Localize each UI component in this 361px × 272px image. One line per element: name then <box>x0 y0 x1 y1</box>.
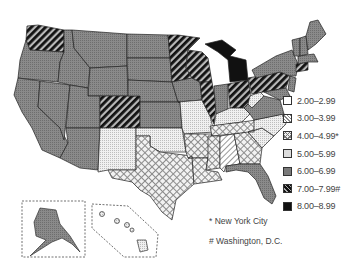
legend-item: 2.00–2.99 <box>283 92 340 110</box>
state-ak <box>30 208 80 256</box>
state-me <box>306 20 326 50</box>
swatch-dark-diagonal <box>283 184 292 193</box>
swatch-black <box>283 202 292 211</box>
state-co <box>100 96 140 128</box>
state-fl <box>226 164 276 204</box>
legend-item: 4.00–4.99* <box>283 127 340 145</box>
legend-item: 8.00–8.99 <box>283 198 340 216</box>
legend-label: 6.00–6.99 <box>297 166 335 176</box>
state-nd <box>127 34 170 58</box>
state-mi <box>205 40 248 82</box>
state-nm <box>98 128 136 172</box>
state-hi <box>137 240 148 252</box>
legend-item: 3.00–3.99 <box>283 110 340 128</box>
legend-label: 4.00–4.99* <box>297 131 339 141</box>
state-wy <box>88 66 128 96</box>
swatch-crosshatch <box>283 131 292 140</box>
footnote-dc: # Washington, D.C. <box>209 236 282 246</box>
alaska-inset <box>22 201 85 257</box>
swatch-light-diagonal <box>283 114 292 123</box>
legend-label: 2.00–2.99 <box>297 96 335 106</box>
state-ks <box>140 102 182 128</box>
state-az <box>60 128 100 170</box>
hawaii-inset <box>92 204 158 257</box>
swatch-gray <box>283 167 292 176</box>
state-wa <box>26 25 64 52</box>
swatch-white <box>283 96 292 105</box>
legend-label: 3.00–3.99 <box>297 113 335 123</box>
legend-label: 5.00–5.99 <box>297 149 335 159</box>
legend: 2.00–2.99 3.00–3.99 4.00–4.99* 5.00–5.99… <box>283 92 340 215</box>
legend-item: 5.00–5.99 <box>283 145 340 163</box>
state-sd <box>127 58 172 82</box>
legend-label: 8.00–8.99 <box>297 201 335 211</box>
legend-item: 7.00–7.99# <box>283 180 340 198</box>
legend-label: 7.00–7.99# <box>297 184 340 194</box>
swatch-light-dots <box>283 149 292 158</box>
legend-item: 6.00–6.99 <box>283 162 340 180</box>
state-ms <box>206 136 220 170</box>
footnote-nyc: * New York City <box>209 216 268 226</box>
